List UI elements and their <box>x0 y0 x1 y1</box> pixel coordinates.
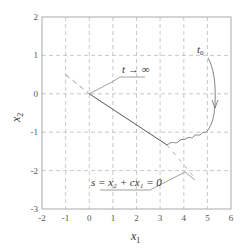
phase-plane-chart: -2 -1 0 1 2 3 4 5 6 2 1 0 -1 -2 -3 x1 x2… <box>0 0 246 249</box>
svg-text:3: 3 <box>158 213 163 223</box>
x-tick-labels: -2 -1 0 1 2 3 4 5 6 <box>38 213 234 223</box>
svg-text:1: 1 <box>111 213 116 223</box>
svg-text:2: 2 <box>34 12 39 22</box>
y-tick-labels: 2 1 0 -1 -2 -3 <box>31 12 39 214</box>
svg-text:-1: -1 <box>62 213 70 223</box>
svg-text:0: 0 <box>87 213 92 223</box>
svg-text:-2: -2 <box>31 166 39 176</box>
svg-text:6: 6 <box>229 213 234 223</box>
y-axis-label: x2 <box>9 113 25 123</box>
t-infinity-leader <box>89 77 145 94</box>
surface-equation-label: s = x₂ + cx₁ = 0 <box>91 176 162 188</box>
svg-text:-1: -1 <box>31 127 39 137</box>
svg-text:4: 4 <box>182 213 187 223</box>
svg-text:5: 5 <box>205 213 210 223</box>
svg-text:-3: -3 <box>31 204 39 214</box>
sliding-surface-line <box>66 75 195 178</box>
x-axis-label: x1 <box>130 229 140 245</box>
svg-text:2: 2 <box>134 213 139 223</box>
t-infinity-label: t→ ∞ <box>122 63 150 75</box>
svg-text:-2: -2 <box>38 213 46 223</box>
t0-label: t0 <box>197 43 204 57</box>
svg-text:0: 0 <box>34 89 39 99</box>
svg-text:1: 1 <box>34 50 39 60</box>
